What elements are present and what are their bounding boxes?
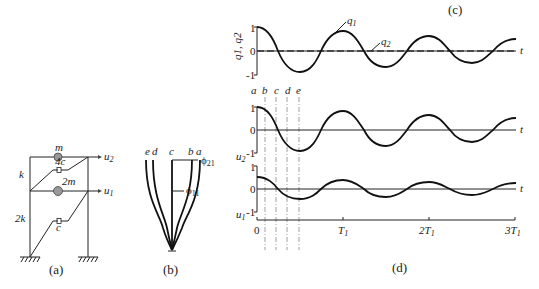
time-tick-3T1: 3T1 (504, 224, 521, 238)
u2-arrowhead-icon (98, 155, 102, 159)
damper-bottom-brace-lower (30, 221, 58, 257)
damper-bottom-label: c (56, 221, 61, 233)
panel-a-frame-diagram: m 2m u2 u1 k 2k 4c c (15, 141, 114, 277)
u1-ylabel: u1 (236, 208, 246, 222)
instant-label-c: c (274, 84, 279, 96)
time-tick-0: 0 (254, 224, 260, 236)
q2-label: q2 (381, 35, 391, 49)
ytick-u1-neg1: -1 (246, 206, 255, 218)
panel-d-displacement-plots: a b c d e u2 1 0 -1 t u1 1 0 -1 t (236, 84, 524, 275)
time-tick-2T1: 2T1 (419, 224, 435, 238)
u1-arrowhead-icon (98, 189, 102, 193)
mass-mid-icon (54, 187, 63, 196)
ytick-c-neg1: -1 (246, 69, 255, 81)
mass-mid-label: 2m (62, 175, 76, 187)
ytick-u1-1: 1 (250, 161, 256, 173)
panel-d-label: (d) (392, 260, 407, 275)
instant-label-e: e (296, 84, 301, 96)
curve-label-e: e (145, 145, 150, 157)
damper-top-label: 4c (55, 155, 66, 167)
panel-b-label: (b) (163, 262, 178, 277)
panel-c-label: (c) (448, 2, 462, 17)
instant-label-d: d (285, 84, 291, 96)
curve-label-b: b (188, 145, 194, 157)
instant-label-b: b (262, 84, 268, 96)
q1-curve (257, 27, 516, 72)
ytick-u1-0: 0 (250, 183, 256, 195)
curve-b (172, 160, 192, 250)
instant-label-a: a (251, 84, 257, 96)
q2-leader (371, 43, 380, 51)
u2-ylabel: u2 (236, 150, 246, 164)
damper-bottom-brace-upper (61, 191, 88, 221)
figure-canvas: m 2m u2 u1 k 2k 4c c (0, 0, 539, 289)
ytick-c-0: 0 (250, 45, 256, 57)
u1-curve (257, 177, 516, 199)
curve-d (153, 160, 172, 250)
panel-c-ylabel: q1, q2 (231, 32, 243, 60)
curve-label-d: d (152, 145, 158, 157)
curve-a (172, 160, 200, 250)
q1-label: q1 (347, 14, 357, 28)
ytick-c-1: 1 (250, 22, 256, 34)
time-tick-T1: T1 (338, 224, 348, 238)
u1-xaxis-label: t (520, 182, 524, 194)
panel-c-modal-coordinates-plot: (c) q1, q2 1 0 -1 t q1 q2 (231, 2, 524, 81)
u2-xaxis-label: t (520, 123, 524, 135)
stiffness-top-label: k (19, 168, 25, 180)
damper-top-brace-lower (30, 170, 58, 191)
mass-top-label: m (55, 141, 63, 153)
ytick-u2-0: 0 (250, 124, 256, 136)
ground-left-icon (20, 257, 40, 262)
panel-a-label: (a) (49, 262, 63, 277)
stiffness-bottom-label: 2k (15, 212, 27, 224)
u2-curve (257, 107, 516, 151)
panel-b-mode-shapes: e d c b a ϕ21 ϕ11 (b) (145, 145, 215, 277)
u1-dof-label: u1 (104, 184, 114, 198)
phi21-label: ϕ21 (201, 154, 215, 168)
ground-right-icon (78, 257, 98, 262)
u2-dof-label: u2 (104, 150, 114, 164)
ytick-u2-neg1: -1 (246, 147, 255, 159)
curve-label-c: c (169, 145, 174, 157)
c-xaxis-label: t (520, 44, 524, 56)
ytick-u2-1: 1 (250, 102, 256, 114)
